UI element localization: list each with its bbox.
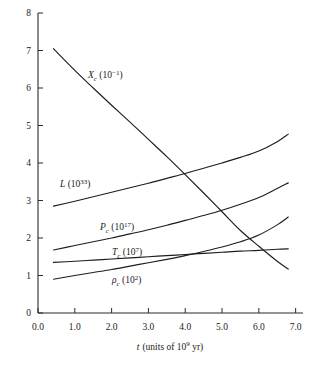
curve-tc xyxy=(53,249,288,263)
stellar-evolution-chart: 012345678 0.01.02.03.04.05.06.07.0 Xc (1… xyxy=(0,0,317,367)
x-tick-label: 5.0 xyxy=(216,322,228,332)
x-tick-label: 2.0 xyxy=(106,322,118,332)
y-tick-label: 4 xyxy=(26,158,31,168)
y-tick-label: 3 xyxy=(26,196,31,206)
y-tick-label: 6 xyxy=(26,83,31,93)
y-tick-marks xyxy=(38,13,43,313)
x-tick-label: 7.0 xyxy=(290,322,302,332)
curve-label-xc: Xc (10−1) xyxy=(87,69,123,83)
curve-label-pc: Pc (1017) xyxy=(99,221,134,235)
curve-l xyxy=(53,134,288,206)
chart-svg: 012345678 0.01.02.03.04.05.06.07.0 Xc (1… xyxy=(0,0,317,367)
x-tick-label: 3.0 xyxy=(142,322,154,332)
x-axis-title: t(units of 109 yr) xyxy=(137,340,203,353)
y-tick-labels: 012345678 xyxy=(26,8,31,318)
curve-xc xyxy=(53,49,288,270)
y-tick-label: 5 xyxy=(26,121,31,131)
x-tick-label: 0.0 xyxy=(32,322,44,332)
curve-pc xyxy=(53,183,288,250)
y-tick-label: 0 xyxy=(26,308,31,318)
x-tick-label: 4.0 xyxy=(179,322,191,332)
curve-label-rhoc: ρc (102) xyxy=(111,274,141,288)
y-tick-label: 1 xyxy=(26,271,31,281)
curve-labels-group: Xc (10−1) L (1033) Pc (1017) Tc (107) ρc… xyxy=(59,69,142,288)
curves-group xyxy=(53,49,288,280)
x-tick-marks xyxy=(38,308,296,313)
x-tick-labels: 0.01.02.03.04.05.06.07.0 xyxy=(32,322,302,332)
y-tick-label: 7 xyxy=(26,46,31,56)
x-tick-label: 1.0 xyxy=(69,322,81,332)
curve-label-l: L (1033) xyxy=(59,178,91,190)
curve-rhoc xyxy=(53,217,288,279)
y-tick-label: 8 xyxy=(26,8,31,18)
axes-group xyxy=(38,13,303,313)
y-tick-label: 2 xyxy=(26,233,31,243)
x-tick-label: 6.0 xyxy=(253,322,265,332)
